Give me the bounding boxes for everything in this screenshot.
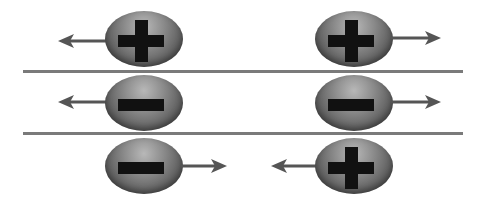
arrow-right-icon [181, 159, 227, 173]
positive-charge-particle [105, 11, 183, 67]
plus-icon-vertical [135, 20, 148, 62]
negative-charge-particle [105, 75, 183, 131]
row-divider [23, 132, 463, 135]
arrow-right-icon [391, 95, 441, 109]
positive-charge-particle [315, 138, 393, 194]
minus-icon [118, 99, 164, 111]
negative-charge-particle [105, 138, 183, 194]
charge-diagram [0, 0, 483, 205]
minus-icon [328, 99, 374, 111]
arrow-left-icon [271, 159, 317, 173]
row-divider [23, 70, 463, 73]
arrow-right-icon [391, 31, 441, 45]
minus-icon [118, 162, 164, 174]
positive-charge-particle [315, 11, 393, 67]
negative-charge-particle [315, 75, 393, 131]
plus-icon-vertical [345, 147, 358, 189]
arrow-left-icon [58, 34, 108, 48]
plus-icon-vertical [345, 20, 358, 62]
arrow-left-icon [58, 95, 108, 109]
